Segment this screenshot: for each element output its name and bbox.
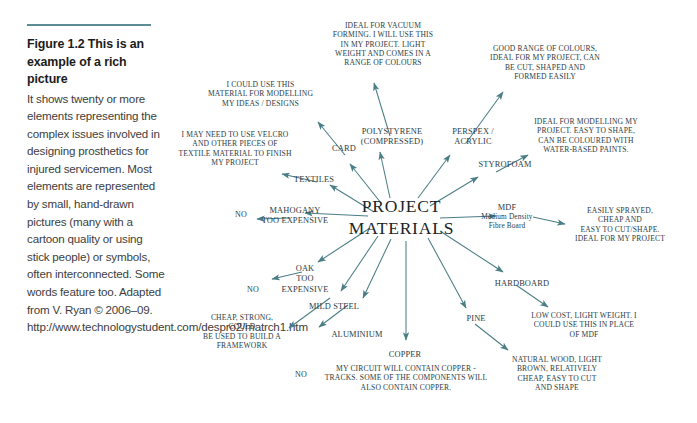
spoke-pine: [428, 238, 466, 308]
node-polystyrene: POLYSTYRENE (COMPRESSED): [352, 127, 432, 148]
note-textiles: I MAY NEED TO USE VELCRO AND OTHER PIECE…: [174, 130, 296, 167]
figure-caption-body: It shows twenty or more elements represe…: [27, 90, 167, 336]
arrow-pine-note: [475, 324, 508, 350]
note-copper: MY CIRCUIT WILL CONTAIN COPPER - TRACKS.…: [321, 364, 491, 392]
node-mahogany-no: NO: [228, 210, 254, 220]
note-styrofoam: IDEAL FOR MODELLING MY PROJECT. EASY TO …: [520, 117, 652, 154]
caption-divider: [27, 24, 151, 26]
node-perspex: PERSPEX / ACRYLIC: [447, 127, 499, 148]
note-pine: NATURAL WOOD, LIGHT BROWN, RELATIVELY CH…: [498, 355, 616, 392]
node-pine: PINE: [459, 314, 493, 324]
node-textiles: TEXTILES: [286, 175, 342, 185]
node-aluminium-no: NO: [288, 370, 314, 380]
note-mild-steel: CHEAP, STRONG, COULD BE USED TO BUILD A …: [192, 313, 292, 350]
note-mdf: EASILY SPRAYED, CHEAP AND EASY TO CUT/SH…: [560, 206, 680, 243]
note-polystyrene: IDEAL FOR VACUUM FORMING. I WILL USE THI…: [319, 21, 447, 67]
mind-map-diagram: PROJECT MATERIALS CARD I COULD USE THIS …: [178, 0, 697, 423]
spoke-aluminium: [363, 239, 391, 298]
node-mdf-subtitle: Medium Density Fibre Board: [472, 213, 542, 231]
node-oak-no: NO: [240, 285, 266, 295]
figure-caption: Figure 1.2 This is an example of a rich …: [27, 24, 167, 336]
spoke-perspex: [418, 155, 450, 198]
node-hardboard: HARDBOARD: [490, 279, 554, 289]
note-hardboard: LOW COST, LIGHT WEIGHT. I COULD USE THIS…: [524, 311, 644, 339]
node-oak: OAK TOO EXPENSIVE: [273, 264, 337, 295]
node-styrofoam: STYROFOAM: [474, 160, 536, 170]
node-aluminium: ALUMINIUM: [326, 330, 388, 340]
note-perspex: GOOD RANGE OF COLOURS, IDEAL FOR MY PROJ…: [476, 44, 614, 81]
node-mahogany: MAHOGANY TOO EXPENSIVE: [260, 206, 330, 227]
spoke-polystyrene: [380, 152, 390, 198]
node-mild-steel: MILD STEEL: [305, 302, 363, 312]
node-project-materials: PROJECT MATERIALS: [344, 196, 459, 240]
spoke-mild-steel: [341, 236, 378, 291]
note-card: I COULD USE THIS MATERIAL FOR MODELLING …: [198, 80, 323, 108]
node-copper: COPPER: [382, 350, 428, 360]
rich-picture-figure: Figure 1.2 This is an example of a rich …: [0, 0, 697, 423]
figure-caption-title: Figure 1.2 This is an example of a rich …: [27, 36, 167, 89]
